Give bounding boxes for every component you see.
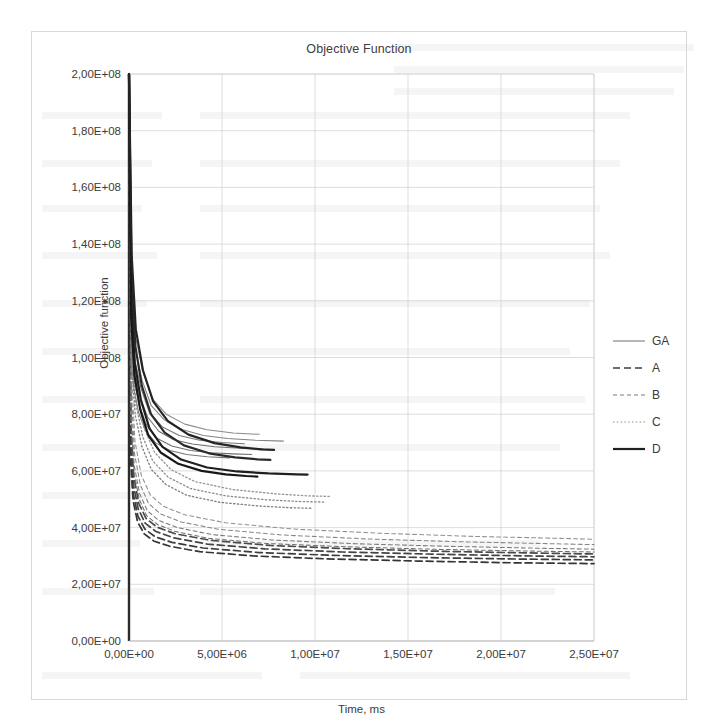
chart-series-lines — [129, 74, 594, 641]
x-axis-title: Time, ms — [129, 703, 594, 715]
x-tick-label: 5,00E+06 — [197, 648, 247, 660]
y-tick-label: 6,00E+07 — [71, 465, 121, 477]
legend-label: C — [652, 416, 661, 428]
x-tick-label: 1,00E+07 — [290, 648, 340, 660]
series-line-b-10 — [129, 74, 594, 549]
legend-item-b[interactable]: B — [612, 381, 692, 408]
legend-label: D — [652, 443, 661, 455]
series-line-ga-5 — [129, 74, 259, 434]
series-line-ga-4 — [129, 74, 229, 458]
y-tick-label: 1,40E+08 — [71, 238, 121, 250]
series-line-b-12 — [129, 74, 594, 552]
legend-swatch-d-icon — [612, 444, 646, 454]
legend-item-ga[interactable]: GA — [612, 327, 692, 354]
legend-item-a[interactable]: A — [612, 354, 692, 381]
legend-swatch-c-icon — [612, 417, 646, 427]
legend-swatch-ga-icon — [612, 336, 646, 346]
legend-item-c[interactable]: C — [612, 408, 692, 435]
y-tick-label: 2,00E+08 — [71, 68, 121, 80]
series-line-d-19 — [129, 74, 257, 477]
legend-label: A — [652, 362, 660, 374]
series-line-ga-3 — [129, 74, 283, 441]
y-tick-label: 1,20E+08 — [71, 295, 121, 307]
y-tick-label: 2,00E+07 — [71, 578, 121, 590]
series-line-ga-1 — [129, 74, 244, 444]
y-tick-label: 4,00E+07 — [71, 522, 121, 534]
series-line-c-15 — [129, 74, 330, 496]
series-line-ga-0 — [129, 74, 263, 449]
legend-label: GA — [652, 335, 669, 347]
y-tick-label: 1,00E+08 — [71, 352, 121, 364]
series-line-c-14 — [129, 74, 324, 502]
y-tick-label: 1,60E+08 — [71, 181, 121, 193]
series-line-ga-2 — [129, 74, 252, 454]
x-tick-label: 0,00E+00 — [104, 648, 154, 660]
legend-item-d[interactable]: D — [612, 435, 692, 462]
legend-swatch-a-icon — [612, 363, 646, 373]
chart-frame: Objective Function Objective function Ti… — [31, 31, 687, 700]
y-tick-label: 8,00E+07 — [71, 408, 121, 420]
series-line-a-7 — [129, 74, 594, 557]
chart-legend: GAABCD — [612, 327, 692, 462]
series-line-b-11 — [129, 74, 594, 545]
plot-area: 0,00E+002,00E+074,00E+076,00E+078,00E+07… — [129, 74, 594, 641]
series-line-d-17 — [129, 74, 308, 475]
y-axis-title: Objective function — [98, 243, 110, 403]
x-tick-label: 1,50E+07 — [383, 648, 433, 660]
legend-label: B — [652, 389, 660, 401]
x-tick-label: 2,00E+07 — [476, 648, 526, 660]
y-tick-label: 0,00E+00 — [71, 635, 121, 647]
legend-swatch-b-icon — [612, 390, 646, 400]
chart-title: Objective Function — [32, 42, 686, 56]
series-line-d-20 — [129, 74, 274, 450]
series-line-a-9 — [129, 74, 594, 554]
x-tick-label: 2,50E+07 — [569, 648, 619, 660]
series-line-a-6 — [129, 74, 594, 560]
y-tick-label: 1,80E+08 — [71, 125, 121, 137]
